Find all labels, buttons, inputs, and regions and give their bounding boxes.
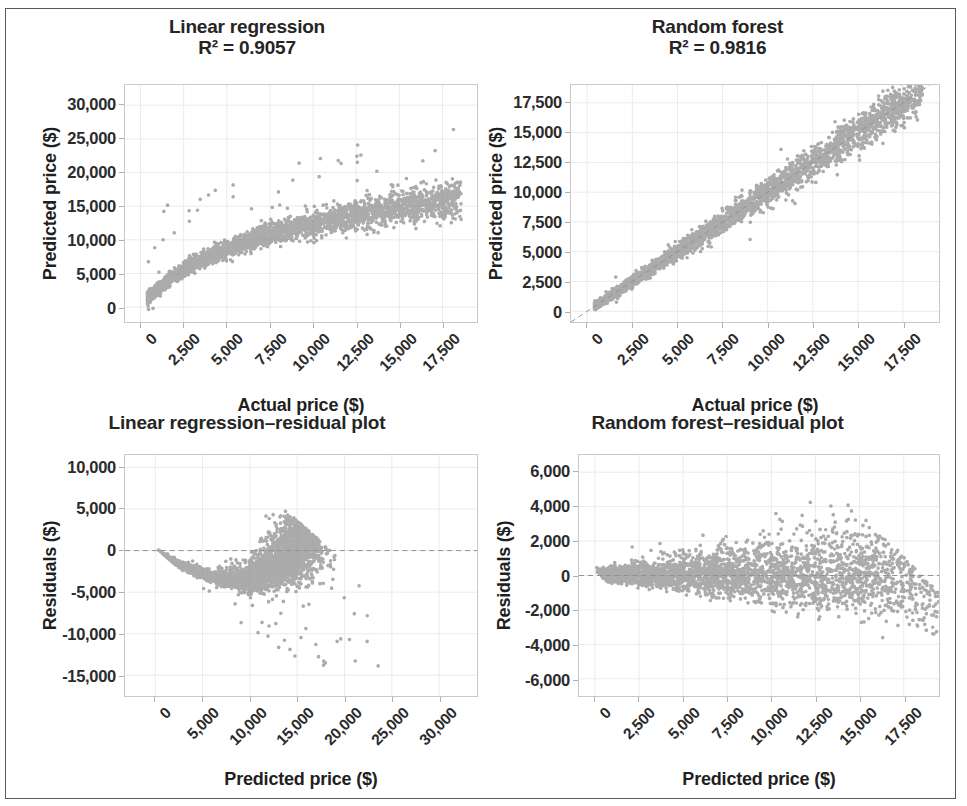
x-tick-mark bbox=[250, 697, 251, 702]
chart-panel-linear-regression-residuals: Linear regression–residual plot10,0005,0… bbox=[14, 406, 480, 800]
x-tick-mark bbox=[154, 697, 155, 702]
x-tick-mark bbox=[858, 323, 859, 328]
x-tick-mark bbox=[860, 697, 861, 702]
y-axis-label-linear-regression-scatter: Predicted price ($) bbox=[40, 64, 61, 343]
y-tick-mark bbox=[119, 467, 124, 468]
y-axis-label-random-forest-scatter: Predicted price ($) bbox=[486, 64, 507, 343]
y-tick-mark bbox=[573, 645, 578, 646]
y-tick-label: -15,000 bbox=[14, 667, 116, 686]
y-tick-mark bbox=[565, 192, 570, 193]
y-tick-label: 15,000 bbox=[14, 197, 116, 216]
plot-area-linear-regression-residuals bbox=[124, 454, 478, 697]
x-tick-mark bbox=[297, 697, 298, 702]
y-axis-label-random-forest-residuals: Residuals ($) bbox=[494, 434, 515, 717]
y-axis-label-linear-regression-residuals: Residuals ($) bbox=[40, 434, 61, 717]
y-tick-label: 5,000 bbox=[14, 499, 116, 518]
y-tick-mark bbox=[573, 471, 578, 472]
x-axis-label-linear-regression-residuals: Predicted price ($) bbox=[124, 769, 478, 790]
scatter-points bbox=[595, 501, 939, 640]
y-tick-mark bbox=[565, 282, 570, 283]
y-tick-mark bbox=[565, 222, 570, 223]
y-tick-mark bbox=[119, 206, 124, 207]
y-tick-label: 20,000 bbox=[14, 163, 116, 182]
chart-title-linear-regression-residuals: Linear regression–residual plot bbox=[14, 412, 480, 433]
figure-root: Linear regression R² = 0.905705,00010,00… bbox=[0, 0, 967, 806]
y-tick-mark bbox=[119, 676, 124, 677]
plot-area-linear-regression-scatter bbox=[124, 84, 478, 323]
x-tick-mark bbox=[904, 323, 905, 328]
chart-title-linear-regression-scatter: Linear regression R² = 0.9057 bbox=[14, 16, 480, 59]
y-tick-mark bbox=[119, 172, 124, 173]
x-tick-mark bbox=[683, 697, 684, 702]
chart-panel-linear-regression-scatter: Linear regression R² = 0.905705,00010,00… bbox=[14, 16, 480, 406]
x-tick-mark bbox=[905, 697, 906, 702]
y-tick-label: 30,000 bbox=[14, 95, 116, 114]
y-tick-mark bbox=[565, 252, 570, 253]
x-tick-mark bbox=[392, 697, 393, 702]
y-tick-label: 0 bbox=[14, 299, 116, 318]
x-tick-mark bbox=[677, 323, 678, 328]
plot-area-random-forest-residuals bbox=[578, 454, 940, 697]
x-tick-mark bbox=[440, 697, 441, 702]
x-tick-mark bbox=[226, 323, 227, 328]
plot-canvas-random-forest-residuals bbox=[579, 455, 939, 696]
y-tick-mark bbox=[573, 610, 578, 611]
x-tick-mark bbox=[313, 323, 314, 328]
x-tick-mark bbox=[345, 697, 346, 702]
panel-grid: Linear regression R² = 0.905705,00010,00… bbox=[0, 0, 967, 806]
x-tick-mark bbox=[357, 323, 358, 328]
y-tick-label: 10,000 bbox=[14, 457, 116, 476]
chart-title-random-forest-scatter: Random forest R² = 0.9816 bbox=[480, 16, 955, 59]
scatter-points bbox=[146, 128, 463, 311]
x-tick-mark bbox=[638, 697, 639, 702]
x-tick-mark bbox=[813, 323, 814, 328]
x-tick-mark bbox=[202, 697, 203, 702]
y-tick-mark bbox=[573, 576, 578, 577]
x-tick-mark bbox=[727, 697, 728, 702]
y-tick-mark bbox=[565, 162, 570, 163]
chart-panel-random-forest-residuals: Random forest–residual plot6,0004,0002,0… bbox=[480, 406, 955, 800]
y-tick-mark bbox=[119, 508, 124, 509]
y-tick-label: 10,000 bbox=[14, 231, 116, 250]
x-tick-mark bbox=[722, 323, 723, 328]
x-tick-mark bbox=[594, 697, 595, 702]
y-tick-label: -10,000 bbox=[14, 625, 116, 644]
plot-canvas-random-forest-scatter bbox=[571, 85, 939, 322]
y-tick-mark bbox=[119, 240, 124, 241]
y-tick-mark bbox=[573, 541, 578, 542]
x-tick-mark bbox=[632, 323, 633, 328]
y-tick-label: -5,000 bbox=[14, 583, 116, 602]
x-tick-mark bbox=[586, 323, 587, 328]
x-tick-mark bbox=[140, 323, 141, 328]
x-tick-mark bbox=[816, 697, 817, 702]
y-tick-label: 0 bbox=[14, 541, 116, 560]
y-tick-mark bbox=[119, 634, 124, 635]
plot-canvas-linear-regression-residuals bbox=[125, 455, 477, 696]
x-tick-mark bbox=[400, 323, 401, 328]
x-axis-label-random-forest-residuals: Predicted price ($) bbox=[578, 769, 940, 790]
y-tick-mark bbox=[119, 274, 124, 275]
y-tick-label: 25,000 bbox=[14, 129, 116, 148]
plot-canvas-linear-regression-scatter bbox=[125, 85, 477, 322]
y-tick-mark bbox=[565, 132, 570, 133]
y-tick-mark bbox=[565, 312, 570, 313]
y-tick-mark bbox=[119, 592, 124, 593]
y-tick-mark bbox=[573, 680, 578, 681]
y-tick-mark bbox=[565, 102, 570, 103]
y-tick-mark bbox=[119, 104, 124, 105]
y-tick-mark bbox=[573, 506, 578, 507]
x-tick-mark bbox=[771, 697, 772, 702]
chart-title-random-forest-residuals: Random forest–residual plot bbox=[480, 412, 955, 433]
x-tick-mark bbox=[183, 323, 184, 328]
y-tick-label: 5,000 bbox=[14, 265, 116, 284]
chart-panel-random-forest-scatter: Random forest R² = 0.981602,5005,0007,50… bbox=[480, 16, 955, 406]
x-tick-mark bbox=[270, 323, 271, 328]
y-tick-mark bbox=[119, 138, 124, 139]
scatter-points bbox=[157, 509, 380, 667]
y-tick-mark bbox=[119, 550, 124, 551]
x-tick-mark bbox=[768, 323, 769, 328]
y-tick-mark bbox=[119, 308, 124, 309]
plot-area-random-forest-scatter bbox=[570, 84, 940, 323]
x-tick-mark bbox=[443, 323, 444, 328]
